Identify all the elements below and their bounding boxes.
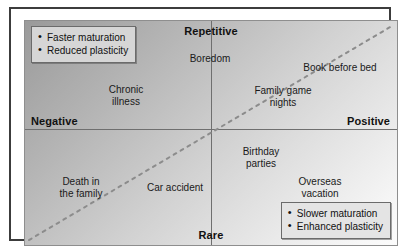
callout-top-left: Faster maturation Reduced plasticity bbox=[31, 26, 136, 63]
event-label-family-game-nights: Family game nights bbox=[241, 85, 325, 109]
event-label-chronic-illness: Chronic illness bbox=[91, 84, 161, 108]
axis-label-bottom: Rare bbox=[199, 229, 224, 241]
event-label-book-before-bed: Book before bed bbox=[290, 62, 390, 74]
callout-bottom-right: Slower maturation Enhanced plasticity bbox=[281, 202, 391, 239]
callout-top-left-item-2: Reduced plasticity bbox=[38, 44, 128, 57]
horizontal-axis-line bbox=[25, 129, 397, 130]
callout-bottom-right-item-2: Enhanced plasticity bbox=[288, 220, 383, 233]
callout-bottom-right-list: Slower maturation Enhanced plasticity bbox=[288, 207, 383, 233]
event-label-death-in-the-family: Death in the family bbox=[46, 176, 116, 200]
diagram-frame: Repetitive Rare Negative Positive Boredo… bbox=[9, 7, 391, 241]
callout-bottom-right-item-1: Slower maturation bbox=[288, 207, 383, 220]
callout-top-left-list: Faster maturation Reduced plasticity bbox=[38, 31, 128, 57]
axis-label-left: Negative bbox=[31, 115, 78, 127]
axis-label-right: Positive bbox=[347, 115, 390, 127]
event-label-overseas-vacation: Overseas vacation bbox=[280, 176, 360, 200]
callout-top-left-item-1: Faster maturation bbox=[38, 31, 128, 44]
event-label-birthday-parties: Birthday parties bbox=[225, 146, 297, 170]
plot-area: Repetitive Rare Negative Positive Boredo… bbox=[24, 20, 398, 246]
event-label-boredom: Boredom bbox=[175, 53, 245, 65]
axis-label-top: Repetitive bbox=[184, 25, 238, 37]
event-label-car-accident: Car accident bbox=[135, 182, 215, 194]
quadrant-diagram-screenshot: Repetitive Rare Negative Positive Boredo… bbox=[0, 0, 400, 248]
